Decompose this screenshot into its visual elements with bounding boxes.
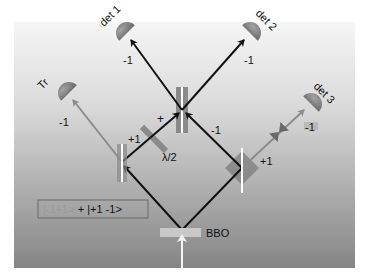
det1-mode: -1 bbox=[123, 54, 133, 66]
waveplate-label: λ/2 bbox=[162, 151, 177, 163]
det2-mode: -1 bbox=[244, 54, 254, 66]
left-arm-label: +1 bbox=[128, 133, 141, 145]
optics-diagram: det 1 -1 det 2 -1 Tr -1 det 3 -1 +1 + -1… bbox=[0, 0, 367, 275]
state-term: |+1 -1> bbox=[87, 203, 122, 215]
center-right-label: -1 bbox=[211, 124, 221, 136]
tr-mode: -1 bbox=[59, 116, 69, 128]
det3-mode: -1 bbox=[305, 121, 315, 133]
state-expression: |-1+1> + |+1 -1> bbox=[43, 203, 122, 215]
bbo-label: BBO bbox=[206, 227, 230, 239]
state-faded-term: |-1+1> bbox=[43, 203, 75, 215]
center-left-label: + bbox=[157, 112, 164, 126]
state-plus: + bbox=[78, 203, 87, 215]
right-arm-label: +1 bbox=[260, 155, 273, 167]
bbo-crystal bbox=[160, 228, 201, 237]
